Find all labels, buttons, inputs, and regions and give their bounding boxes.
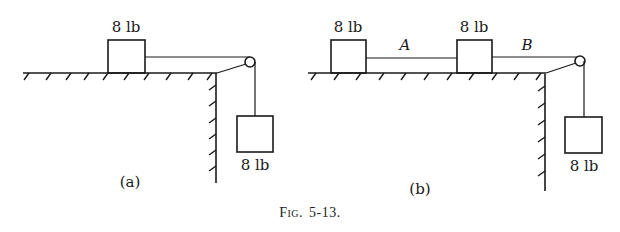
pulley-bracket-a [217,64,246,73]
pulley-icon [245,57,255,67]
panel-a: 8 lb 8 lb (a) [23,18,273,191]
hanging-block-weight-a: 8 lb [241,156,270,174]
rope-label-b: B [520,36,532,54]
figure-canvas: 8 lb 8 lb (a) [0,0,620,232]
hanging-block-weight-b: 8 lb [570,157,599,175]
table-block-a [108,40,145,73]
table-block-weight-a: 8 lb [112,18,141,36]
figure-caption: Fig.5-13. [279,205,341,220]
hanging-block-a [237,116,273,152]
floor-hatching-b [311,73,541,80]
table-block-b-1 [331,40,366,73]
wall-hatching-a [209,85,216,171]
floor-hatching-a [24,73,212,80]
panel-label-b: (b) [409,180,430,198]
rope-label-a: A [398,36,411,54]
hanging-block-b [565,117,602,153]
wall-hatching-b [538,86,545,176]
caption-prefix: Fig. [279,205,303,220]
pulley-bracket-b [546,63,576,73]
table-block-weight-b-1: 8 lb [334,18,363,36]
caption-number: 5-13. [309,205,341,220]
panel-label-a: (a) [120,173,141,191]
panel-b: 8 lb A 8 lb B 8 lb (b) [308,18,602,198]
table-block-b-2 [457,40,492,73]
table-block-weight-b-2: 8 lb [460,18,489,36]
